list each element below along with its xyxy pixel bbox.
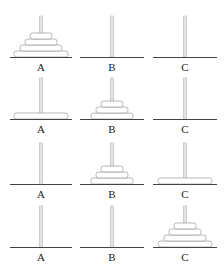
hanoi-diagram: ABCABCABCABC: [0, 0, 224, 266]
peg-label: A: [37, 61, 45, 73]
peg-label: B: [108, 251, 115, 263]
tower-c: C: [153, 78, 217, 135]
peg-rod: [184, 16, 187, 57]
disk-size-4: [158, 241, 212, 247]
peg-rod: [111, 206, 114, 247]
disk-size-2: [96, 107, 128, 113]
peg-label: A: [37, 251, 45, 263]
disk-size-4: [14, 51, 68, 57]
peg-label: C: [181, 123, 188, 135]
peg-label: B: [108, 188, 115, 200]
peg-rod: [184, 78, 187, 119]
disk-size-2: [96, 172, 128, 178]
tower-a: A: [10, 16, 72, 73]
disk-size-3: [20, 45, 62, 51]
disk-size-3: [164, 235, 206, 241]
disk-size-1: [101, 101, 123, 107]
tower-a: A: [10, 78, 72, 135]
peg-label: B: [108, 123, 115, 135]
state-4: ABC: [10, 206, 217, 263]
disk-size-1: [174, 223, 196, 229]
peg-label: C: [181, 61, 188, 73]
peg-rod: [111, 16, 114, 57]
disk-size-3: [91, 113, 133, 119]
state-3: ABC: [10, 143, 217, 200]
peg-label: C: [181, 188, 188, 200]
peg-label: A: [37, 123, 45, 135]
tower-b: B: [80, 16, 144, 73]
tower-b: B: [80, 143, 144, 200]
state-2: ABC: [10, 78, 217, 135]
peg-rod: [40, 143, 43, 184]
peg-label: B: [108, 61, 115, 73]
tower-c: C: [153, 206, 217, 263]
disk-size-1: [101, 166, 123, 172]
peg-rod: [40, 206, 43, 247]
peg-label: A: [37, 188, 45, 200]
tower-a: A: [10, 143, 72, 200]
disk-size-3: [91, 178, 133, 184]
tower-a: A: [10, 206, 72, 263]
tower-c: C: [153, 16, 217, 73]
disk-size-4: [14, 113, 68, 119]
state-1: ABC: [10, 16, 217, 73]
disk-size-2: [169, 229, 201, 235]
tower-b: B: [80, 206, 144, 263]
tower-c: C: [153, 143, 217, 200]
disk-size-2: [25, 39, 57, 45]
tower-b: B: [80, 78, 144, 135]
peg-label: C: [181, 251, 188, 263]
disk-size-4: [158, 178, 212, 184]
disk-size-1: [30, 33, 52, 39]
